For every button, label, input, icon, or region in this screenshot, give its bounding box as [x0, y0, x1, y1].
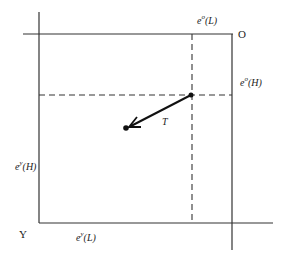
origin-o-label: O — [238, 29, 246, 40]
label-sup: o — [201, 13, 205, 21]
right-axis-label: eo(H) — [240, 78, 262, 88]
origin-y-label: Y — [19, 229, 27, 240]
trade-vector-label: T — [162, 117, 168, 127]
label-arg: (L) — [84, 232, 96, 243]
label-sup: y — [19, 159, 22, 167]
trade-vector-line — [131, 95, 191, 126]
endowment-point — [189, 93, 194, 98]
label-arg: (H) — [23, 161, 37, 172]
left-axis-label: ey(H) — [15, 162, 36, 172]
label-sup: o — [244, 75, 248, 83]
label-sup: y — [80, 230, 83, 238]
label-arg: (L) — [205, 15, 217, 26]
bottom-axis-label: ey(L) — [76, 233, 96, 243]
top-axis-label: eo(L) — [197, 16, 217, 26]
trade-end-point — [123, 125, 129, 131]
label-arg: (H) — [248, 77, 262, 88]
